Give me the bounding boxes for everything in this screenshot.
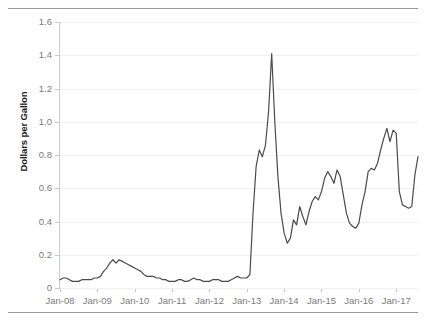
bottom-divider-rule — [8, 312, 418, 313]
y-tick-label: 1.2 — [8, 84, 52, 94]
series-line-dollars-per-gallon — [60, 22, 418, 288]
y-tick-label: 0.6 — [8, 183, 52, 193]
y-tick-label: 0.4 — [8, 217, 52, 227]
y-tick-label: 1.0 — [8, 117, 52, 127]
gridline — [60, 288, 418, 289]
chart-plot-area: Dollars per Gallon 00.20.40.60.81.01.21.… — [0, 8, 426, 312]
series-plot — [60, 22, 418, 288]
y-tick-label: 1.4 — [8, 50, 52, 60]
y-tick-label: 0 — [8, 283, 52, 293]
chart-figure: Dollars per Gallon 00.20.40.60.81.01.21.… — [0, 0, 426, 323]
x-tick-label: Jan-17 — [373, 296, 419, 306]
y-tick-label: 0.8 — [8, 150, 52, 160]
y-tick-label: 1.6 — [8, 17, 52, 27]
y-tick-label: 0.2 — [8, 250, 52, 260]
series-polyline — [60, 54, 418, 282]
